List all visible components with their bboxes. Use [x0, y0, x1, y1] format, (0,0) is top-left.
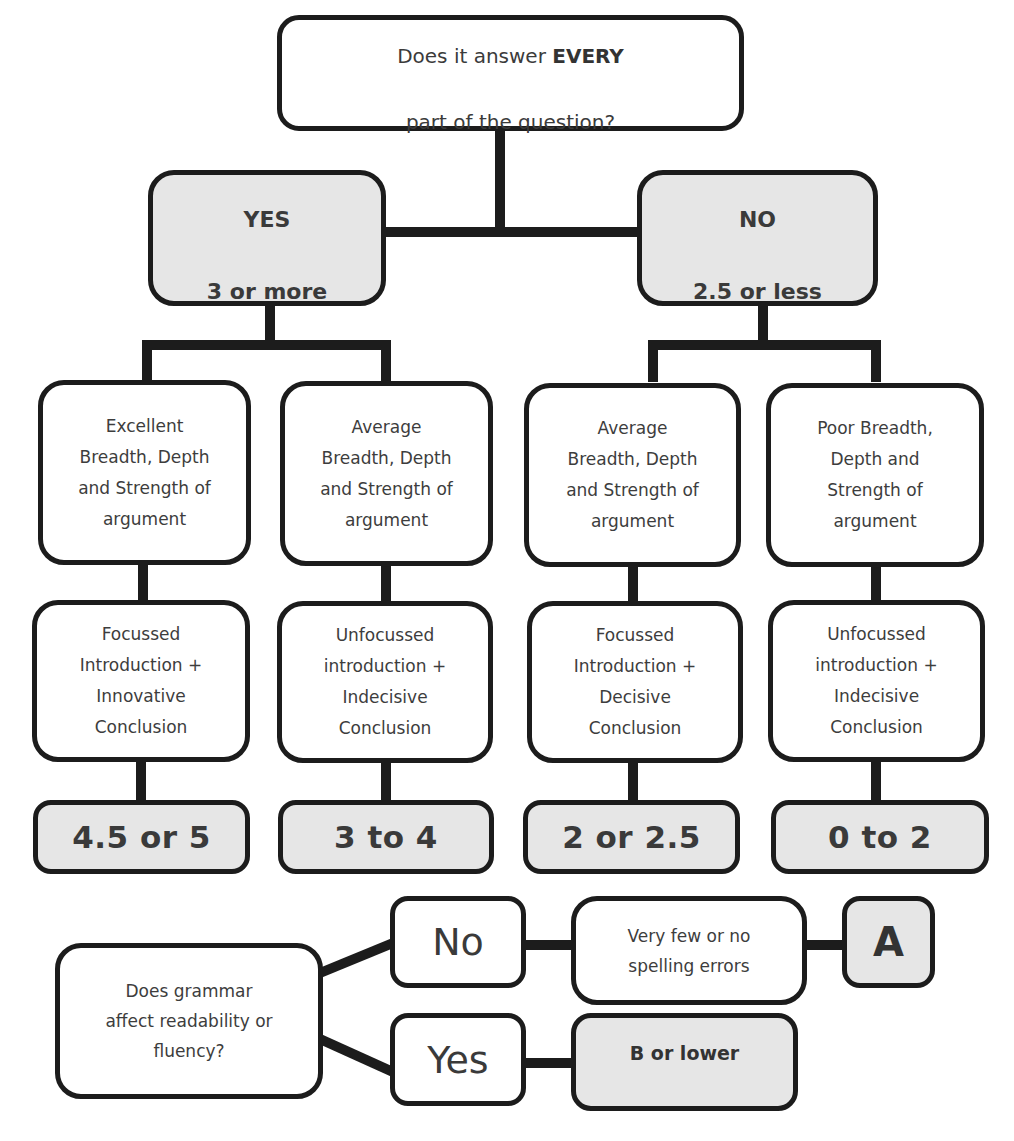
grade-b-text: B or lower [630, 1042, 740, 1064]
grammar-to-no-line [320, 943, 393, 973]
structure-box-2: Unfocussed introduction + Indecisive Con… [277, 601, 493, 763]
yes-branch-box: YES 3 or more [148, 170, 386, 306]
argument-box-1: Excellent Breadth, Depth and Strength of… [38, 380, 251, 565]
yes-label: YES [244, 207, 291, 232]
no-branch-box: NO 2.5 or less [637, 170, 878, 306]
grammar-question-box: Does grammar affect readability or fluen… [55, 943, 323, 1099]
grammar-to-yes-line [320, 1039, 393, 1072]
no-score: 2.5 or less [693, 279, 822, 304]
grammar-no-box: No [390, 896, 526, 988]
grammar-yes-box: Yes [390, 1013, 526, 1106]
question-prefix: Does it answer [397, 44, 552, 68]
grade-b-box: B or lower [571, 1013, 798, 1111]
argument-box-3: Average Breadth, Depth and Strength of a… [524, 383, 741, 567]
structure-box-1: Focussed Introduction + Innovative Concl… [32, 600, 250, 762]
root-question-box: Does it answer EVERY part of the questio… [277, 15, 744, 131]
score-box-1: 4.5 or 5 [33, 800, 250, 874]
argument-box-2: Average Breadth, Depth and Strength of a… [280, 381, 493, 566]
yes-score: 3 or more [207, 279, 327, 304]
grade-a-box: A [842, 896, 935, 988]
spelling-box: Very few or no spelling errors [571, 896, 807, 1005]
score-box-4: 0 to 2 [771, 800, 989, 874]
score-box-3: 2 or 2.5 [523, 800, 740, 874]
root-question-text: Does it answer EVERY part of the questio… [397, 7, 624, 139]
score-box-2: 3 to 4 [278, 800, 494, 874]
question-emphasis: EVERY [552, 44, 624, 68]
no-label: NO [739, 207, 776, 232]
question-suffix: part of the question? [406, 110, 615, 134]
argument-box-4: Poor Breadth, Depth and Strength of argu… [766, 383, 984, 567]
structure-box-4: Unfocussed introduction + Indecisive Con… [768, 600, 985, 762]
structure-box-3: Focussed Introduction + Decisive Conclus… [527, 601, 743, 763]
